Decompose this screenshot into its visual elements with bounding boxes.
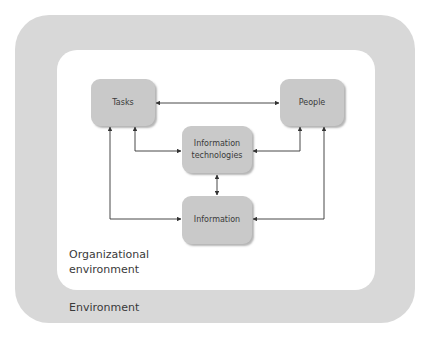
node-information: Information <box>182 196 252 244</box>
node-information-technologies: Information technologies <box>182 126 252 173</box>
organizational-environment-label: Organizational environment <box>69 247 189 277</box>
node-information-technologies-label: Information technologies <box>192 138 243 162</box>
environment-label: Environment <box>69 300 139 315</box>
node-people-label: People <box>299 97 326 109</box>
organizational-environment-label-line1: Organizational <box>69 247 189 262</box>
node-people: People <box>280 79 344 126</box>
organizational-environment-label-line2: environment <box>69 262 189 277</box>
node-tasks-label: Tasks <box>112 97 133 109</box>
node-tasks: Tasks <box>91 79 155 126</box>
node-information-label: Information <box>194 214 240 226</box>
